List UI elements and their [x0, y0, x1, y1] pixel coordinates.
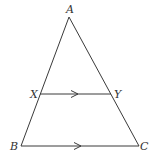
label-point-c: C — [140, 140, 149, 153]
label-point-a: A — [65, 3, 74, 16]
label-point-x: X — [29, 88, 39, 101]
label-point-b: B — [9, 140, 18, 153]
label-point-y: Y — [114, 88, 123, 101]
segment-ab — [21, 17, 69, 146]
triangle-diagram: A X Y B C — [0, 0, 158, 161]
segment-ac — [69, 17, 139, 146]
diagram-svg: A X Y B C — [0, 0, 158, 161]
